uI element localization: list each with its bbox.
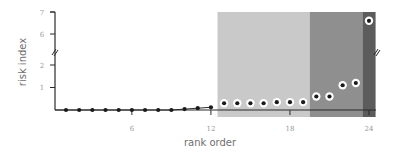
data-point xyxy=(209,105,213,109)
ringed-point-core xyxy=(235,101,239,105)
data-point xyxy=(130,108,134,112)
x-tick-label: 18 xyxy=(285,125,294,133)
y-tick-label: 7 xyxy=(40,9,44,17)
data-point xyxy=(156,108,160,112)
data-point xyxy=(103,108,107,112)
data-point xyxy=(182,107,186,111)
data-point xyxy=(169,108,173,112)
ringed-point-core xyxy=(354,81,358,85)
band-dark xyxy=(362,12,375,117)
x-axis-title: rank order xyxy=(184,137,237,148)
y-tick-label: 2 xyxy=(40,62,44,70)
x-tick-label: 6 xyxy=(130,125,135,133)
ringed-point-core xyxy=(301,100,305,104)
ringed-point-core xyxy=(275,100,279,104)
ringed-point-core xyxy=(222,101,226,105)
ringed-point-core xyxy=(262,101,266,105)
y-tick-label: 1 xyxy=(40,84,44,92)
risk-bands xyxy=(218,12,376,117)
data-point xyxy=(196,106,200,110)
ringed-point-core xyxy=(288,100,292,104)
ringed-point-core xyxy=(327,94,331,98)
data-point xyxy=(64,108,68,112)
band-medium xyxy=(310,12,363,117)
ringed-point-core xyxy=(341,83,345,87)
ringed-point-core xyxy=(314,94,318,98)
data-point xyxy=(77,108,81,112)
ringed-point-core xyxy=(367,19,371,23)
data-point xyxy=(90,108,94,112)
y-axis-title: risk index xyxy=(17,38,28,87)
data-point xyxy=(143,108,147,112)
x-tick-label: 12 xyxy=(206,125,215,133)
x-tick-label: 24 xyxy=(365,125,374,133)
y-tick-label: 6 xyxy=(40,31,45,39)
risk-index-chart: 12676121824 rank order risk index xyxy=(0,0,394,157)
data-point xyxy=(117,108,121,112)
ringed-point-core xyxy=(248,101,252,105)
